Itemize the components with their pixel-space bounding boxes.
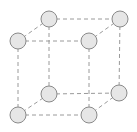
atom-front-bottom-right: [81, 107, 97, 123]
atom-front-bottom-left: [10, 107, 26, 123]
cube-edges: [18, 19, 120, 115]
atom-front-top-left: [10, 33, 26, 49]
cubic-lattice-diagram: [0, 0, 137, 132]
atom-back-bottom-left: [41, 86, 57, 102]
atom-back-top-right: [112, 11, 128, 27]
lattice-atoms: [10, 11, 128, 123]
atom-front-top-right: [81, 33, 97, 49]
atom-back-bottom-right: [111, 85, 127, 101]
cube-edge-back-top-right-to-back-bottom-right: [119, 19, 120, 93]
atom-back-top-left: [41, 11, 57, 27]
cube-edge-back-bottom-left-to-back-bottom-right: [49, 93, 119, 94]
